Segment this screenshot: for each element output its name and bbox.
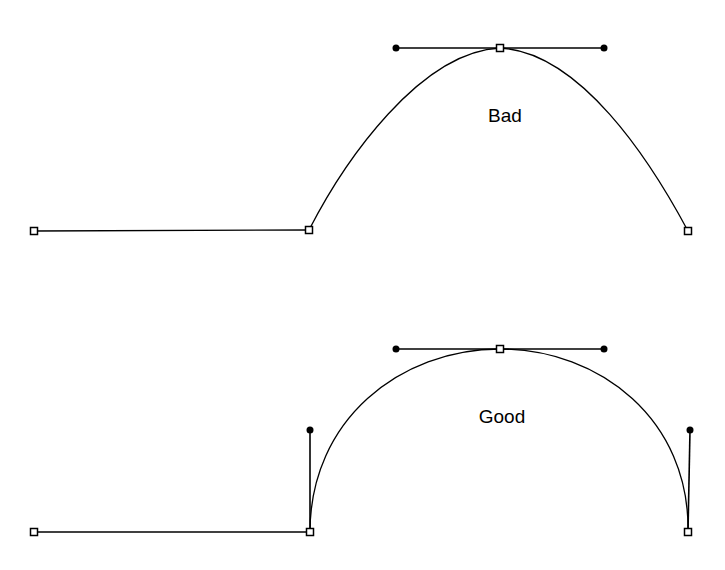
bad-curve-diagram: Bad xyxy=(31,45,692,235)
control-handle-dot-icon[interactable] xyxy=(601,45,608,52)
bad-label: Bad xyxy=(488,105,522,126)
anchor-point-square-icon[interactable] xyxy=(685,529,692,536)
control-handle-dot-icon[interactable] xyxy=(307,427,314,434)
anchor-point-square-icon[interactable] xyxy=(497,346,504,353)
anchor-point-square-icon[interactable] xyxy=(497,45,504,52)
anchor-point-square-icon[interactable] xyxy=(31,228,38,235)
bezier-curve xyxy=(309,48,688,231)
straight-segment xyxy=(34,230,309,231)
anchor-point-square-icon[interactable] xyxy=(306,227,313,234)
control-handle-dot-icon[interactable] xyxy=(393,346,400,353)
bezier-comparison-diagram: Bad Good xyxy=(0,0,725,570)
control-handle-dot-icon[interactable] xyxy=(601,346,608,353)
good-label: Good xyxy=(479,406,525,427)
good-curve-diagram: Good xyxy=(31,346,694,536)
anchor-point-square-icon[interactable] xyxy=(307,529,314,536)
anchor-point-square-icon[interactable] xyxy=(31,529,38,536)
control-handle-dot-icon[interactable] xyxy=(393,45,400,52)
anchor-point-square-icon[interactable] xyxy=(685,228,692,235)
bezier-curve xyxy=(310,349,688,532)
handle-line[interactable] xyxy=(688,430,690,532)
control-handle-dot-icon[interactable] xyxy=(687,427,694,434)
